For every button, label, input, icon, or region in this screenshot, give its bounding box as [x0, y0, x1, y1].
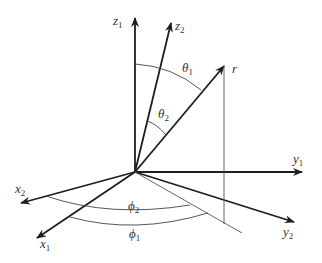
z1-label: z1	[112, 13, 123, 30]
spherical-coordinate-diagram: z1 z2 r θ1 θ2 y1 y2 x2 x1 ϕ2 ϕ1	[0, 0, 322, 263]
y2-axis	[135, 172, 294, 222]
x1-label: x1	[39, 236, 50, 253]
theta1-label: θ1	[182, 60, 193, 77]
phi2-arc	[46, 196, 190, 210]
y1-label: y1	[291, 151, 303, 168]
z2-label: z2	[174, 18, 185, 35]
x2-label: x2	[14, 181, 25, 198]
phi1-label: ϕ1	[129, 226, 140, 243]
y2-label: y2	[281, 224, 293, 241]
phi2-label: ϕ2	[128, 198, 139, 215]
theta2-arc	[147, 121, 166, 135]
x2-axis	[21, 172, 135, 203]
x1-axis	[37, 172, 135, 238]
r-label: r	[232, 61, 238, 76]
theta2-label: θ2	[158, 106, 169, 123]
